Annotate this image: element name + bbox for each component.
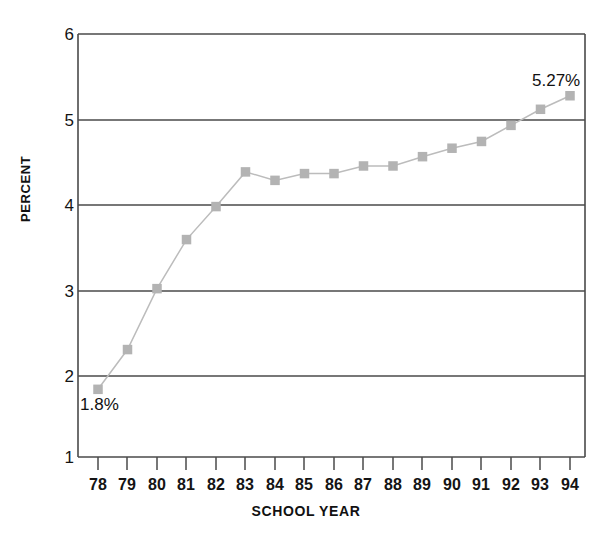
data-point-marker xyxy=(182,235,192,245)
plot-area xyxy=(0,0,612,543)
y-axis-title: PERCENT xyxy=(18,156,33,222)
data-point-marker xyxy=(300,169,310,179)
data-point-marker xyxy=(241,167,251,177)
first-point-annotation: 1.8% xyxy=(80,396,119,413)
percent-by-school-year-chart: 6 5 4 3 2 1 xyxy=(0,0,612,543)
x-tick-label: 88 xyxy=(378,477,408,493)
x-tick-label: 81 xyxy=(171,477,201,493)
x-tick-label: 80 xyxy=(142,477,172,493)
x-tick-label: 94 xyxy=(555,477,585,493)
x-tick-label: 87 xyxy=(348,477,378,493)
data-point-marker xyxy=(418,152,428,162)
data-point-marker xyxy=(123,345,133,355)
x-tick-label: 85 xyxy=(289,477,319,493)
data-point-marker xyxy=(93,385,103,395)
x-tick-label: 86 xyxy=(319,477,349,493)
x-tick-label: 89 xyxy=(407,477,437,493)
series-markers xyxy=(93,91,575,394)
x-tick-label: 78 xyxy=(83,477,113,493)
data-point-marker xyxy=(447,143,457,153)
data-point-marker xyxy=(270,176,280,186)
data-point-marker xyxy=(536,105,546,115)
data-point-marker xyxy=(329,169,339,179)
data-point-marker xyxy=(211,202,221,212)
data-point-marker xyxy=(565,91,575,101)
data-point-marker xyxy=(477,137,487,147)
plot-frame xyxy=(78,34,585,457)
x-tick-label: 82 xyxy=(201,477,231,493)
last-point-annotation: 5.27% xyxy=(532,72,580,89)
gridlines xyxy=(78,120,585,376)
data-point-marker xyxy=(506,121,516,130)
data-point-marker xyxy=(388,161,398,171)
x-tick-label: 84 xyxy=(260,477,290,493)
x-axis-title: SCHOOL YEAR xyxy=(0,503,612,519)
x-axis-ticks xyxy=(98,457,570,470)
x-tick-label: 93 xyxy=(525,477,555,493)
x-tick-label: 91 xyxy=(466,477,496,493)
x-tick-label: 90 xyxy=(437,477,467,493)
x-tick-label: 79 xyxy=(112,477,142,493)
data-point-marker xyxy=(359,161,369,171)
series-line xyxy=(98,96,570,390)
data-point-marker xyxy=(152,284,162,294)
x-tick-label: 83 xyxy=(230,477,260,493)
x-tick-label: 92 xyxy=(496,477,526,493)
